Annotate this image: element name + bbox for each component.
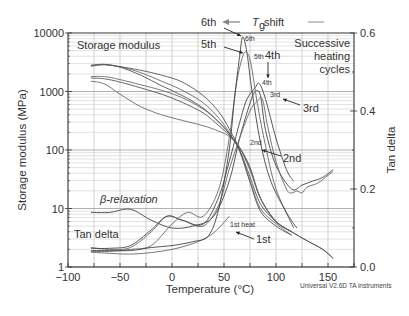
storage-modulus-curve-2nd — [91, 78, 333, 259]
peak-label-6th: 6th — [201, 16, 216, 28]
instrument-footer: Universal V2.6D TA instruments — [300, 282, 392, 289]
y-tick-label: 10 — [52, 203, 64, 215]
y-axis-title: Storage modulus (MPa) — [16, 89, 28, 211]
storage-modulus-label: Storage modulus — [77, 39, 161, 51]
y-tick-label: 1 — [58, 261, 64, 273]
peak-label-1st: 1st — [256, 233, 271, 245]
peak-small-label-6th: 6th — [245, 35, 255, 42]
y2-tick-label: 0.4 — [360, 105, 375, 117]
successive-label-1: Successive — [294, 37, 350, 49]
dma-chart: −100−50050100150 110100100010000 0.00.20… — [0, 0, 409, 316]
y2-tick-label: 0.6 — [360, 27, 375, 39]
y-tick-labels: 110100100010000 — [33, 27, 64, 273]
x-tick-label: 0 — [169, 271, 175, 283]
y2-tick-labels: 0.00.20.40.6 — [360, 27, 375, 273]
peak-small-label-3rd: 3rd — [270, 91, 280, 98]
tg-shift-arrowhead — [222, 19, 229, 25]
peak-small-label-4th: 4th — [262, 79, 272, 86]
peak-label-4th: 4th — [265, 49, 280, 61]
x-tick-label: 50 — [218, 271, 230, 283]
peak-arrowhead-4th — [266, 74, 270, 78]
y2-tick-label: 0.0 — [360, 261, 375, 273]
beta-relaxation-label: β-relaxation — [99, 193, 158, 205]
peak-small-label-5th: 5th — [254, 53, 264, 60]
x-tick-label: 100 — [267, 271, 285, 283]
successive-label-2: heating — [314, 50, 350, 62]
x-tick-label: −50 — [111, 271, 130, 283]
peak-arrowhead-3rd — [283, 99, 287, 102]
y2-axis-title: Tan delta — [385, 126, 397, 173]
y-tick-label: 1000 — [40, 86, 64, 98]
y-tick-label: 10000 — [33, 27, 64, 39]
tan-delta-curve-6th — [91, 37, 297, 251]
y2-tick-label: 0.2 — [360, 183, 375, 195]
tg-shift-text: shift — [264, 16, 284, 28]
tg-shift-legend: T g shift — [222, 16, 324, 31]
tan-delta-label: Tan delta — [74, 228, 120, 240]
peak-label-2nd: 2nd — [283, 152, 301, 164]
peak-small-label-1st-heat: 1st heat — [230, 221, 255, 228]
tan-delta-curve-4th — [91, 83, 294, 248]
peak-label-3rd: 3rd — [303, 102, 319, 114]
successive-label-3: cycles — [319, 63, 350, 75]
x-axis-title: Temperature (°C) — [166, 283, 254, 295]
peak-small-label-2nd: 2nd — [250, 139, 262, 146]
peak-label-5th: 5th — [201, 38, 216, 50]
y-tick-label: 100 — [46, 144, 64, 156]
x-tick-labels: −100−50050100150 — [56, 271, 338, 283]
